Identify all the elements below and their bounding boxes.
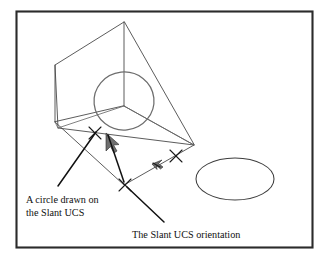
figure-root: A circle drawn on the Slant UCS The Slan… — [0, 0, 329, 263]
slant-ucs-figure: A circle drawn on the Slant UCS The Slan… — [0, 0, 329, 263]
circle-label-line2: the Slant UCS — [26, 207, 85, 218]
circle-label-line1: A circle drawn on — [26, 194, 99, 205]
orientation-label-line1: The Slant UCS orientation — [132, 229, 240, 240]
